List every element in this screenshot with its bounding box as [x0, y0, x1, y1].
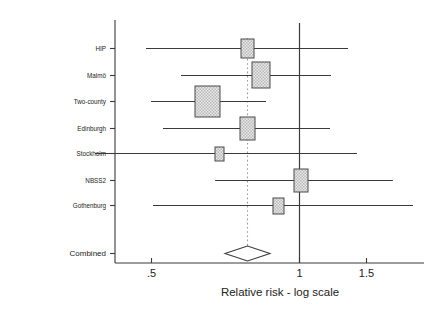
effect-box-edinburgh: [240, 117, 255, 140]
study-label-malmo: Malmö: [87, 72, 106, 79]
study-label-gothenburg: Gothenburg: [73, 202, 107, 210]
study-label-two-county: Two-county: [74, 98, 107, 106]
effect-box-hip: [241, 39, 254, 58]
effect-box-gothenburg: [273, 198, 284, 214]
forest-plot-canvas: HIP Malmö Two-county Edinburgh: [0, 0, 437, 317]
x-tick-label-1-5: 1.5: [359, 267, 374, 279]
study-label-combined: Combined: [70, 249, 106, 258]
x-tick-label-1: 1: [296, 267, 302, 279]
study-label-nbss2: NBSS2: [85, 177, 106, 184]
effect-box-malmo: [252, 62, 270, 88]
x-axis-title: Relative risk - log scale: [221, 286, 339, 298]
study-label-hip: HIP: [96, 45, 107, 52]
effect-box-two-county: [195, 86, 220, 117]
x-tick-label-0-5: .5: [147, 267, 156, 279]
forest-plot-figure: HIP Malmö Two-county Edinburgh: [0, 0, 437, 317]
effect-box-stockholm: [215, 147, 224, 161]
effect-box-nbss2: [294, 169, 308, 192]
study-label-edinburgh: Edinburgh: [77, 125, 106, 133]
